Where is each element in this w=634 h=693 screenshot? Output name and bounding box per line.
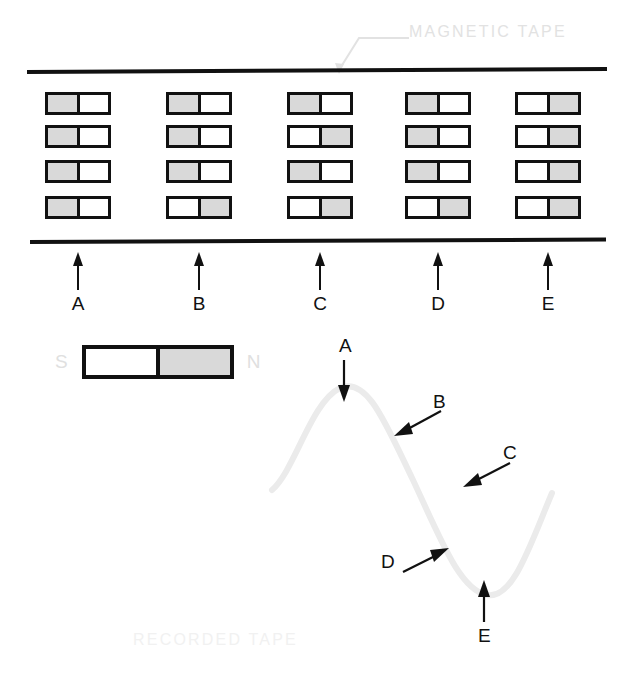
callout-a-label: A xyxy=(339,336,352,355)
magnet-c-2 xyxy=(287,125,353,148)
magnet-south-half xyxy=(437,163,469,180)
arrow-head xyxy=(315,252,325,266)
magnet-c-3 xyxy=(287,160,353,183)
magnet-south-half xyxy=(319,95,351,112)
tape-marker-label: B xyxy=(179,294,219,313)
magnet-south-half xyxy=(77,128,109,145)
magnet-e-2 xyxy=(515,125,581,148)
callout-c-arrow xyxy=(455,455,525,505)
tape-marker-b: B xyxy=(179,252,219,313)
callout-a-arrow xyxy=(330,358,370,408)
tape-marker-arrow-icon xyxy=(300,252,340,290)
magnet-north-half xyxy=(319,199,351,216)
magnet-south-half xyxy=(518,163,547,180)
magnet-south-half xyxy=(319,163,351,180)
magnet-e-4 xyxy=(515,196,581,219)
magnet-e-3 xyxy=(515,160,581,183)
tape-marker-arrow-icon xyxy=(179,252,219,290)
magnet-north-half xyxy=(290,163,319,180)
magnet-b-2 xyxy=(166,125,232,148)
magnet-north-half xyxy=(48,199,77,216)
tape-marker-label: E xyxy=(528,294,568,313)
magnet-d-3 xyxy=(405,160,471,183)
magnet-south-half xyxy=(169,199,198,216)
magnet-d-4 xyxy=(405,196,471,219)
magnet-north-half xyxy=(408,128,437,145)
arrow-head xyxy=(433,252,443,266)
magnet-grid xyxy=(0,0,634,240)
magnet-north-half xyxy=(408,95,437,112)
south-pole-label: S xyxy=(55,351,69,373)
tape-marker-arrow-icon xyxy=(58,252,98,290)
magnet-south-half xyxy=(198,163,230,180)
magnet-north-half xyxy=(48,163,77,180)
magnet-c-4 xyxy=(287,196,353,219)
magnet-a-2 xyxy=(45,125,111,148)
magnet-south-half xyxy=(437,95,469,112)
magnet-north-half xyxy=(169,95,198,112)
magnet-north-half xyxy=(547,163,579,180)
magnet-north-half xyxy=(437,199,469,216)
magnet-south-half xyxy=(408,199,437,216)
tape-marker-label: A xyxy=(58,294,98,313)
magnet-b-1 xyxy=(166,92,232,115)
magnet-north-half xyxy=(198,199,230,216)
pole-legend: S N xyxy=(55,341,261,383)
figure-canvas: MAGNETIC TAPE ABCDE S N A B xyxy=(0,0,634,693)
magnet-e-1 xyxy=(515,92,581,115)
arrow-head xyxy=(73,252,83,266)
magnet-south-half xyxy=(518,199,547,216)
magnet-south-half xyxy=(198,128,230,145)
tape-marker-e: E xyxy=(528,252,568,313)
tape-marker-c: C xyxy=(300,252,340,313)
magnet-north-half xyxy=(547,128,579,145)
magnet-b-3 xyxy=(166,160,232,183)
magnet-north-half xyxy=(169,128,198,145)
legend-magnet-south-half xyxy=(86,349,156,375)
magnet-a-4 xyxy=(45,196,111,219)
magnet-north-half xyxy=(290,95,319,112)
magnet-south-half xyxy=(198,95,230,112)
magnet-north-half xyxy=(169,163,198,180)
tape-marker-d: D xyxy=(418,252,458,313)
magnet-south-half xyxy=(437,128,469,145)
magnet-south-half xyxy=(518,128,547,145)
magnet-south-half xyxy=(290,128,319,145)
callout-b-arrow xyxy=(388,402,458,452)
tape-marker-label: C xyxy=(300,294,340,313)
magnet-south-half xyxy=(518,95,547,112)
magnet-north-half xyxy=(547,199,579,216)
magnet-south-half xyxy=(290,199,319,216)
magnet-d-2 xyxy=(405,125,471,148)
callout-e-arrow xyxy=(470,578,510,626)
magnet-d-1 xyxy=(405,92,471,115)
magnet-a-1 xyxy=(45,92,111,115)
magnet-south-half xyxy=(77,199,109,216)
magnet-north-half xyxy=(547,95,579,112)
arrow-head xyxy=(194,252,204,266)
legend-magnet-north-half xyxy=(156,349,230,375)
magnet-south-half xyxy=(77,95,109,112)
magnet-north-half xyxy=(408,163,437,180)
tape-marker-arrow-icon xyxy=(528,252,568,290)
magnet-north-half xyxy=(48,128,77,145)
callout-e-label: E xyxy=(478,626,491,645)
tape-marker-a: A xyxy=(58,252,98,313)
magnet-north-half xyxy=(48,95,77,112)
magnet-c-1 xyxy=(287,92,353,115)
legend-magnet-bar xyxy=(82,345,234,379)
tape-marker-label: D xyxy=(418,294,458,313)
tape-marker-arrow-icon xyxy=(418,252,458,290)
arrow-head xyxy=(543,252,553,266)
magnet-north-half xyxy=(319,128,351,145)
magnet-b-4 xyxy=(166,196,232,219)
magnet-a-3 xyxy=(45,160,111,183)
recorded-tape-label: RECORDED TAPE xyxy=(133,631,298,649)
callout-d-arrow xyxy=(381,548,461,594)
magnet-south-half xyxy=(77,163,109,180)
